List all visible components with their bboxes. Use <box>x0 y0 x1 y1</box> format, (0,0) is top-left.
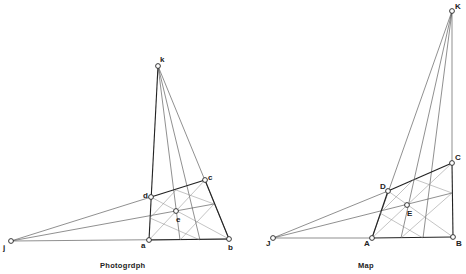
diag-A-C <box>372 163 452 238</box>
point-a <box>147 238 152 243</box>
label-d: d <box>143 191 148 200</box>
grid-4 <box>150 218 200 240</box>
point-b <box>227 237 232 242</box>
grid-3 <box>150 190 176 218</box>
label-J: J <box>266 239 270 248</box>
label-j: j <box>2 243 5 252</box>
label-D: D <box>380 182 386 191</box>
edge-a-b <box>149 239 229 240</box>
point-J <box>271 236 276 241</box>
point-c <box>203 178 208 183</box>
label-K: K <box>455 2 461 11</box>
ray-J-D <box>273 191 388 238</box>
label-a: a <box>141 241 146 250</box>
grid-2 <box>176 190 214 204</box>
edge-A-B <box>372 237 453 238</box>
ray-J-E <box>273 193 452 238</box>
point-B <box>451 235 456 240</box>
label-A: A <box>364 239 370 248</box>
map-figure: K C D E A B J Map <box>266 2 462 270</box>
ray-K-2 <box>423 11 452 238</box>
point-d <box>149 195 154 200</box>
label-E: E <box>407 209 413 218</box>
caption-photograph: Photogrdph <box>100 261 146 270</box>
point-C <box>450 161 455 166</box>
point-K <box>450 9 455 14</box>
projective-transformation-diagram: k d c e a b j Photogrdph <box>0 0 466 274</box>
label-e: e <box>176 215 181 224</box>
label-c: c <box>208 173 213 182</box>
label-B: B <box>456 239 462 248</box>
label-b: b <box>228 243 233 252</box>
edge-A-D <box>372 191 388 238</box>
label-k: k <box>160 55 165 64</box>
label-C: C <box>455 153 461 162</box>
point-E <box>405 203 410 208</box>
point-k <box>156 64 161 69</box>
point-e <box>174 209 179 214</box>
point-D <box>386 189 391 194</box>
edge-D-C <box>388 163 452 191</box>
ray-j-e <box>11 204 214 241</box>
point-A <box>370 236 375 241</box>
ray-j-d <box>11 197 151 241</box>
diag-d-b <box>151 197 229 239</box>
grid-4 <box>380 213 423 238</box>
photograph-figure: k d c e a b j Photogrdph <box>2 55 233 270</box>
edge-C-B <box>452 163 453 237</box>
caption-map: Map <box>358 261 374 270</box>
point-j <box>9 239 14 244</box>
